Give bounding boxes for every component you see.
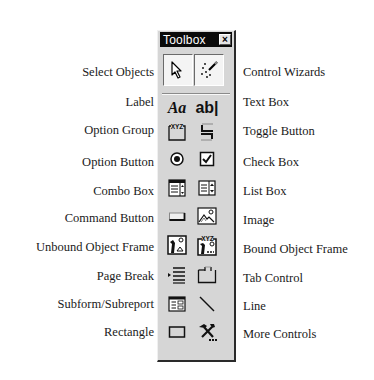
callout-check-box: Check Box xyxy=(243,155,299,169)
line-icon xyxy=(198,295,216,313)
callout-unbound-object-frame: Unbound Object Frame xyxy=(36,240,154,254)
option-group-tool-button[interactable]: XYZ xyxy=(164,119,190,145)
command-button-tool-button[interactable] xyxy=(164,203,190,229)
callout-bound-object-frame: Bound Object Frame xyxy=(243,242,348,256)
rectangle-icon xyxy=(168,325,186,339)
callout-more-controls: More Controls xyxy=(243,327,316,341)
svg-text:XYZ: XYZ xyxy=(171,123,184,130)
callout-rectangle: Rectangle xyxy=(104,325,154,339)
svg-text:XYZ: XYZ xyxy=(201,235,214,242)
toggle-button-tool-button[interactable] xyxy=(194,119,220,145)
option-button-tool-button[interactable] xyxy=(164,146,190,172)
unbound-object-frame-tool-button[interactable] xyxy=(164,232,190,258)
magic-wand-icon xyxy=(198,59,220,81)
aa-label-icon: Aa xyxy=(168,99,187,117)
callout-list-box: List Box xyxy=(243,184,286,198)
page-break-icon xyxy=(167,266,187,284)
ab-textbox-icon: ab| xyxy=(195,99,218,117)
image-tool-button[interactable] xyxy=(194,203,220,229)
rectangle-tool-button[interactable] xyxy=(164,319,190,345)
callout-combo-box: Combo Box xyxy=(93,184,154,198)
callout-option-button: Option Button xyxy=(82,155,154,169)
toolbox-title: Toolbox xyxy=(163,33,206,47)
command-button-icon xyxy=(168,209,186,223)
callout-select-objects: Select Objects xyxy=(82,65,154,79)
callout-control-wizards: Control Wizards xyxy=(243,65,325,79)
callout-tab-control: Tab Control xyxy=(243,271,303,285)
combo-box-tool-button[interactable] xyxy=(164,175,190,201)
callout-subform-subreport: Subform/Subreport xyxy=(57,297,154,311)
list-box-icon xyxy=(198,179,216,197)
unbound-object-frame-icon xyxy=(167,235,187,255)
bound-object-frame-icon: XYZ xyxy=(196,234,218,256)
tab-control-tool-button[interactable] xyxy=(194,262,220,288)
callout-label: Label xyxy=(126,95,154,109)
bound-object-frame-tool-button[interactable]: XYZ xyxy=(194,232,220,258)
checkbox-icon xyxy=(199,151,215,167)
callout-page-break: Page Break xyxy=(97,269,154,283)
select-objects-button[interactable] xyxy=(163,54,193,86)
close-icon: × xyxy=(222,35,228,45)
combo-box-icon xyxy=(168,179,186,197)
check-box-tool-button[interactable] xyxy=(194,146,220,172)
toggle-button-icon xyxy=(199,122,215,142)
toolbox-panel: Toolbox × Aa ab| XYZ xyxy=(157,30,236,362)
callout-image: Image xyxy=(243,213,274,227)
callout-toggle-button: Toggle Button xyxy=(243,124,315,138)
control-wizards-button[interactable] xyxy=(194,54,224,86)
close-button[interactable]: × xyxy=(219,34,231,45)
callout-command-button: Command Button xyxy=(65,211,154,225)
pointer-arrow-icon xyxy=(170,61,186,79)
option-group-icon: XYZ xyxy=(167,122,187,142)
line-tool-button[interactable] xyxy=(194,291,220,317)
callout-option-group: Option Group xyxy=(84,123,154,137)
tab-control-icon xyxy=(197,266,217,284)
page-break-tool-button[interactable] xyxy=(164,262,190,288)
text-box-tool-button[interactable]: ab| xyxy=(194,95,220,121)
image-icon xyxy=(197,207,217,225)
callout-line: Line xyxy=(243,299,266,313)
list-box-tool-button[interactable] xyxy=(194,175,220,201)
more-controls-hammer-icon xyxy=(196,321,218,343)
callout-text-box: Text Box xyxy=(243,95,289,109)
subform-icon xyxy=(168,296,186,312)
subform-subreport-tool-button[interactable] xyxy=(164,291,190,317)
toolbox-titlebar[interactable]: Toolbox × xyxy=(160,32,232,47)
more-controls-tool-button[interactable] xyxy=(194,319,220,345)
radio-button-icon xyxy=(169,151,185,167)
label-tool-button[interactable]: Aa xyxy=(164,95,190,121)
